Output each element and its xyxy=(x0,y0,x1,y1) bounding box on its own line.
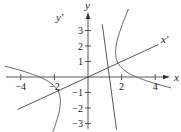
x-axis-arrow xyxy=(163,75,170,80)
hyperbola-right-branch xyxy=(116,9,172,88)
x-tick-label: −2 xyxy=(49,81,60,92)
y-axis-label: y xyxy=(84,0,90,11)
x-tick-label: 4 xyxy=(153,81,158,92)
y-tick-label: 3 xyxy=(78,25,83,36)
x-axis-label: x xyxy=(173,71,179,83)
y-prime-label: y' xyxy=(55,11,64,23)
x-tick-label: −4 xyxy=(15,81,26,92)
y-tick-label: −1 xyxy=(72,87,83,98)
hyperbola-left-branch xyxy=(5,66,61,132)
y-tick-label: 2 xyxy=(78,41,83,52)
y-axis-arrow xyxy=(86,12,91,19)
hyperbola-plot: −4−224−3−2−1123xyx'y' xyxy=(0,0,181,132)
y-tick-label: 1 xyxy=(78,56,83,67)
x-prime-label: x' xyxy=(160,33,169,45)
x-tick-label: 2 xyxy=(119,81,124,92)
y-tick-label: −2 xyxy=(72,103,83,114)
y-tick-label: −3 xyxy=(72,118,83,129)
